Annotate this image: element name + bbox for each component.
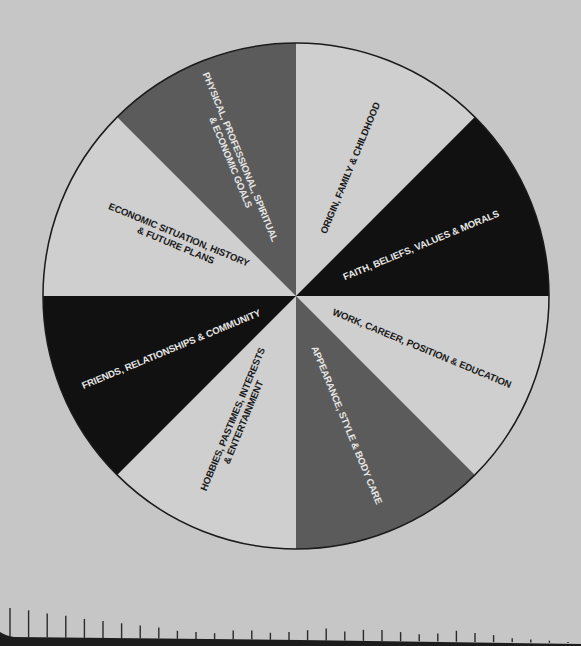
wheel-slices	[43, 43, 549, 549]
ruler-strip	[0, 600, 581, 646]
life-areas-wheel: ORIGIN, FAMILY & CHILDHOOD FAITH, BELIEF…	[0, 0, 581, 646]
ruler-ticks	[10, 608, 568, 643]
